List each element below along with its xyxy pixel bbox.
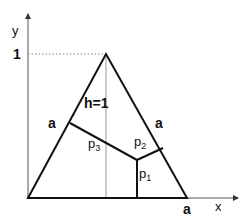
x-axis-label: x	[215, 199, 222, 214]
side-label-right: a	[155, 115, 163, 131]
p2-label: p2	[134, 134, 146, 151]
p1-label: p1	[139, 166, 151, 183]
y-tick-label: 1	[13, 46, 21, 62]
side-label-left: a	[48, 115, 56, 131]
perpendicular-p3	[70, 123, 137, 160]
equilateral-triangle-diagram: y 1 x a a a h=1 p3 p2 p1	[0, 0, 247, 220]
y-axis-label: y	[12, 23, 19, 38]
side-label-bottom: a	[183, 201, 191, 217]
height-label: h=1	[84, 95, 109, 111]
